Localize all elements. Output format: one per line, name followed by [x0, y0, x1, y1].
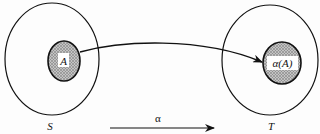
subset-a-label: A [59, 55, 67, 67]
set-t-label: T [268, 120, 275, 132]
set-s-label: S [47, 120, 53, 132]
set-s: A S [5, 3, 99, 132]
mapping-curve-arrow [80, 43, 262, 62]
diagram-canvas: A S α(A) T α [0, 0, 320, 134]
subset-alpha-a-label: α(A) [273, 57, 293, 70]
set-t: α(A) T [222, 5, 318, 132]
mapping-alpha-label: α [155, 112, 161, 124]
mapping-diagram: A S α(A) T α [0, 0, 320, 134]
mapping-legend-arrow: α [110, 112, 214, 128]
